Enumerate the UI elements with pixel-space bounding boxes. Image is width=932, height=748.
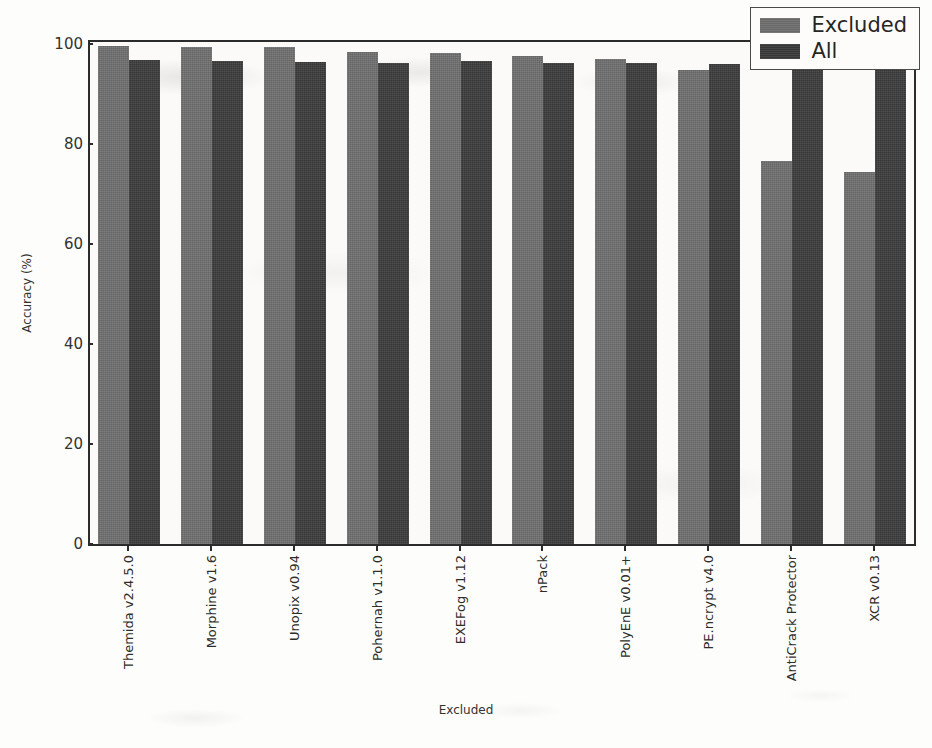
legend-item-all: All bbox=[760, 41, 907, 62]
y-tick-label: 100 bbox=[54, 35, 88, 53]
bar-excluded-10 bbox=[844, 172, 875, 544]
y-tick-mark bbox=[88, 243, 93, 245]
y-tick: 20 bbox=[64, 435, 88, 453]
legend-item-excluded: Excluded bbox=[760, 15, 907, 36]
y-tick-label: 0 bbox=[73, 535, 88, 553]
y-tick-mark bbox=[88, 443, 93, 445]
x-tick-label-text: EXEFog v1.12 bbox=[452, 555, 467, 644]
x-tick-label-text: PolyEnE v0.01+ bbox=[618, 555, 633, 658]
x-tick-label-text: PE.ncrypt v4.0 bbox=[701, 555, 716, 649]
bar-excluded-1 bbox=[98, 46, 129, 544]
x-tick-label-text: nPack bbox=[535, 555, 550, 593]
bar-excluded-2 bbox=[181, 47, 212, 545]
y-tick-label: 40 bbox=[64, 335, 88, 353]
x-tick-label-text: AntiCrack Protector bbox=[783, 555, 798, 681]
y-tick: 0 bbox=[73, 535, 88, 553]
x-tick-label-text: XCR v0.13 bbox=[866, 555, 881, 622]
x-tick-label-text: Unopix v0.94 bbox=[287, 555, 302, 641]
y-axis-title: Accuracy (%) bbox=[20, 253, 34, 332]
x-axis-title: Excluded bbox=[0, 703, 932, 717]
bar-excluded-3 bbox=[264, 47, 295, 545]
bar-group bbox=[512, 42, 574, 544]
x-tick-label-text: Pohernah v1.1.0 bbox=[369, 555, 384, 661]
legend-swatch-excluded bbox=[760, 18, 800, 33]
x-tick-label: AntiCrack Protector bbox=[791, 429, 806, 555]
y-tick-mark bbox=[88, 343, 93, 345]
y-tick-label: 60 bbox=[64, 235, 88, 253]
x-tick-label: Pohernah v1.1.0 bbox=[377, 449, 392, 555]
bar-excluded-5 bbox=[430, 53, 461, 544]
y-tick-label: 20 bbox=[64, 435, 88, 453]
x-tick-label: PE.ncrypt v4.0 bbox=[708, 461, 723, 555]
y-tick: 60 bbox=[64, 235, 88, 253]
x-tick-label: Themida v2.4.5.0 bbox=[128, 441, 143, 555]
bar-excluded-9 bbox=[761, 161, 792, 544]
y-tick: 40 bbox=[64, 335, 88, 353]
x-tick-label: nPack bbox=[542, 517, 557, 555]
bar-group bbox=[844, 42, 906, 544]
y-tick-mark bbox=[88, 143, 93, 145]
x-tick-label: EXEFog v1.12 bbox=[460, 466, 475, 555]
legend-label: All bbox=[811, 41, 837, 62]
bar-excluded-7 bbox=[595, 59, 626, 544]
legend-swatch-all bbox=[760, 44, 800, 59]
x-tick-label: Unopix v0.94 bbox=[294, 469, 309, 555]
bar-excluded-4 bbox=[347, 52, 378, 545]
x-tick-label: XCR v0.13 bbox=[874, 488, 889, 555]
x-tick-label-text: Morphine v1.6 bbox=[204, 555, 219, 648]
y-tick-mark bbox=[88, 543, 93, 545]
x-tick-label-text: Themida v2.4.5.0 bbox=[121, 555, 136, 669]
x-tick-label: Morphine v1.6 bbox=[211, 462, 226, 555]
y-tick-mark bbox=[88, 43, 93, 45]
bar-excluded-8 bbox=[678, 70, 709, 545]
chart-legend: ExcludedAll bbox=[750, 7, 920, 70]
y-tick: 100 bbox=[54, 35, 88, 53]
bar-all-6 bbox=[543, 63, 574, 544]
bar-chart-figure: Accuracy (%) 020406080100 Themida v2.4.5… bbox=[0, 0, 932, 748]
x-tick-label: PolyEnE v0.01+ bbox=[625, 452, 640, 555]
y-tick-label: 80 bbox=[64, 135, 88, 153]
y-tick: 80 bbox=[64, 135, 88, 153]
bar-all-10 bbox=[875, 63, 906, 544]
bar-excluded-6 bbox=[512, 56, 543, 545]
legend-label: Excluded bbox=[811, 15, 907, 36]
